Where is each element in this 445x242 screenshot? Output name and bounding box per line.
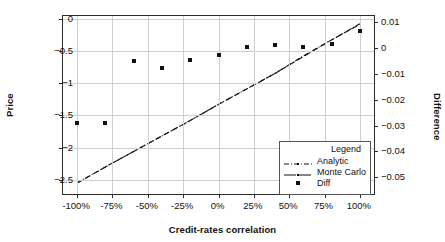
x-gridline (183, 16, 184, 194)
y-axis-right-tick-label: 0 (381, 42, 441, 53)
y-axis-right-tick-label: 0.01 (381, 16, 441, 27)
x-gridline (77, 16, 78, 194)
legend-item-monte-carlo[interactable]: Monte Carlo (283, 166, 367, 177)
chart-figure: Price Difference Credit-rates correlatio… (0, 0, 445, 242)
y-axis-right-tick-label: −0.05 (381, 171, 441, 182)
x-axis-tick-label: 100% (336, 200, 382, 211)
diff-marker (132, 59, 136, 63)
legend-label: Analytic (313, 156, 349, 166)
y-axis-right-tick (374, 74, 378, 75)
diff-marker (217, 53, 221, 57)
diff-marker (75, 121, 79, 125)
x-axis-tick (77, 194, 78, 198)
x-axis-tick (183, 194, 184, 198)
y-gridline (63, 115, 374, 116)
y-axis-right-tick-label: −0.03 (381, 119, 441, 130)
x-axis-tick (219, 194, 220, 198)
diff-marker (103, 121, 107, 125)
x-axis-tick (254, 194, 255, 198)
y-gridline (63, 19, 374, 20)
x-axis-tick (148, 194, 149, 198)
x-gridline (148, 16, 149, 194)
y-axis-right-tick (374, 48, 378, 49)
y-axis-left-tick-label: 0 (13, 12, 73, 23)
y-axis-right-tick (374, 22, 378, 23)
legend-item-diff[interactable]: Diff (283, 177, 367, 188)
legend-swatch-icon (283, 166, 313, 177)
y-axis-right-tick (374, 100, 378, 101)
legend-square-marker-icon (296, 181, 300, 185)
y-axis-right-tick-label: −0.02 (381, 93, 441, 104)
y-axis-right-tick-label: −0.04 (381, 145, 441, 156)
y-gridline (63, 83, 374, 84)
x-gridline (219, 16, 220, 194)
y-axis-left-tick-label: −0.5 (13, 44, 73, 55)
x-gridline (254, 16, 255, 194)
diff-marker (188, 58, 192, 62)
legend-title: Legend (283, 144, 367, 155)
diff-marker (330, 42, 334, 46)
x-axis-title: Credit-rates correlation (0, 224, 445, 235)
diff-marker (245, 45, 249, 49)
legend-swatch-icon (283, 177, 313, 188)
y-axis-right-tick (374, 177, 378, 178)
legend-label: Diff (313, 178, 330, 188)
legend-swatch-icon (283, 155, 313, 166)
chart-legend[interactable]: LegendAnalyticMonte CarloDiff (279, 141, 371, 195)
diff-marker (273, 43, 277, 47)
diff-marker (358, 29, 362, 33)
y-gridline (63, 51, 374, 52)
y-axis-left-tick-label: −2 (13, 141, 73, 152)
diff-marker (160, 66, 164, 70)
y-axis-left-tick-label: −1.5 (13, 109, 73, 120)
diff-marker (301, 45, 305, 49)
y-axis-left-tick-label: −1 (13, 77, 73, 88)
y-axis-right-tick-label: −0.01 (381, 67, 441, 78)
x-axis-tick (112, 194, 113, 198)
y-axis-left-tick-label: −2.5 (13, 173, 73, 184)
y-axis-right-tick (374, 126, 378, 127)
y-axis-left-title: Price (2, 60, 16, 150)
legend-item-analytic[interactable]: Analytic (283, 155, 367, 166)
legend-label: Monte Carlo (313, 167, 366, 177)
x-gridline (112, 16, 113, 194)
y-axis-right-tick (374, 151, 378, 152)
